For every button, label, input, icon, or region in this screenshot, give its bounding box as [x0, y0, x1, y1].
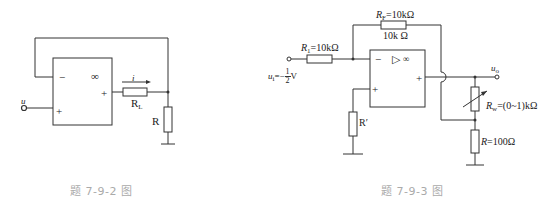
- node: [474, 119, 477, 122]
- opamp-minus-label: −: [375, 54, 381, 65]
- input-voltage-label: ui=−12V: [268, 68, 297, 85]
- opamp-triangle-label: ▷: [392, 54, 400, 65]
- resistor-r1: [307, 55, 332, 63]
- resistor-r: [164, 107, 172, 132]
- figure-left-caption: 题 7-9-2 图: [70, 182, 132, 198]
- input-terminal: [287, 57, 291, 61]
- circuit-diagrams: [0, 0, 542, 205]
- input-label: u: [21, 97, 26, 106]
- opamp-plus-output-label: +: [416, 73, 422, 84]
- resistor-r: [471, 130, 479, 153]
- load-resistor-label: RL: [131, 98, 143, 111]
- rprime-label: R′: [359, 118, 368, 128]
- figure-left-circuit: [22, 38, 176, 144]
- rw-label: Rw=(0~1)kΩ: [486, 101, 537, 113]
- opamp-plus-output-label: +: [101, 88, 107, 99]
- resistor-rprime: [349, 112, 357, 136]
- r1-label: R1=10kΩ: [301, 43, 339, 55]
- resistor-label: R: [152, 116, 159, 127]
- resistor-rf: [381, 21, 406, 29]
- rf-extra-label: 10k Ω: [383, 31, 408, 41]
- figure-right-caption: 题 7-9-3 图: [381, 182, 443, 198]
- opamp-minus-label: −: [59, 72, 65, 83]
- opamp-gain-label: ∞: [91, 71, 99, 82]
- load-resistor-rl: [123, 88, 147, 96]
- opamp-plus-input-label: +: [372, 84, 378, 95]
- output-terminal: [495, 75, 499, 79]
- r-label: R=100Ω: [481, 137, 515, 147]
- node: [167, 91, 170, 94]
- output-label: uo: [491, 64, 499, 75]
- rf-label: RF=10kΩ: [376, 10, 414, 22]
- opamp-gain-label: ∞: [403, 55, 409, 64]
- current-label: i: [132, 74, 135, 83]
- opamp-plus-input-label: +: [56, 106, 62, 117]
- input-terminal: [22, 106, 27, 111]
